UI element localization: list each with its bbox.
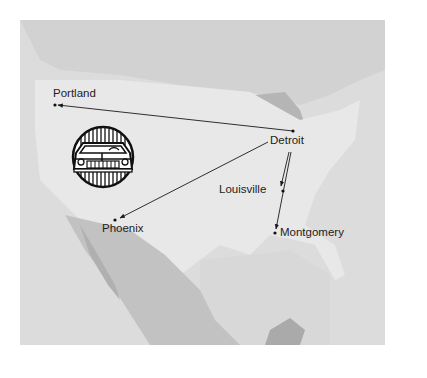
map-background: [20, 20, 385, 345]
city-label-phoenix: Phoenix: [102, 222, 144, 234]
city-dot-louisville: [281, 189, 284, 192]
city-label-louisville: Louisville: [219, 183, 266, 195]
car-icon: [73, 127, 133, 187]
city-label-montgomery: Montgomery: [280, 226, 344, 238]
city-dot-detroit: [291, 129, 294, 132]
map-shapes: [20, 20, 385, 345]
city-dot-montgomery: [273, 231, 276, 234]
city-label-detroit: Detroit: [270, 134, 304, 146]
city-dot-portland: [53, 103, 56, 106]
city-label-portland: Portland: [53, 87, 96, 99]
